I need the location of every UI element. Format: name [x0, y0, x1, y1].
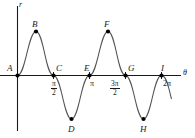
tick-label-3pi-over-2: 3π 2 — [110, 80, 120, 96]
point-dot-C — [51, 73, 55, 77]
theta-axis-label: θ — [183, 69, 187, 77]
tick-numerator-pi-over-2: π — [51, 80, 57, 88]
tick-label-pi-over-2: π 2 — [51, 80, 57, 96]
point-dot-H — [141, 117, 145, 121]
point-label-H: H — [140, 125, 147, 134]
point-dot-B — [34, 29, 38, 33]
tick-label-pi: π — [90, 80, 94, 88]
tick-denominator-3pi-over-2: 2 — [110, 89, 120, 97]
point-label-F: F — [104, 20, 110, 29]
point-dot-F — [106, 29, 110, 33]
point-label-G: G — [128, 64, 135, 73]
point-dot-G — [123, 73, 127, 77]
plot-canvas — [0, 0, 195, 138]
point-label-B: B — [32, 20, 38, 29]
tick-denominator-pi-over-2: 2 — [51, 89, 57, 97]
point-dot-I — [159, 73, 163, 77]
point-dot-A — [15, 73, 19, 77]
r-axis-label: r — [19, 1, 22, 9]
tick-numerator-3pi-over-2: 3π — [110, 80, 120, 88]
sine-curve-figure: r θ A B C D E F G H I π 2 π 3π 2 2π — [0, 0, 195, 138]
point-label-I: I — [161, 64, 164, 73]
point-dot-E — [87, 73, 91, 77]
point-label-D: D — [68, 125, 75, 134]
point-label-A: A — [7, 64, 13, 73]
tick-label-2pi: 2π — [163, 80, 171, 88]
point-dot-D — [69, 117, 73, 121]
point-label-E: E — [84, 64, 90, 73]
point-label-C: C — [56, 64, 62, 73]
